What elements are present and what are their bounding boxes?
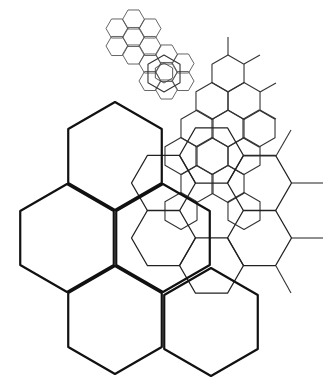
- diagram-background: [0, 0, 335, 392]
- hexagon-grid-diagram: [0, 0, 335, 392]
